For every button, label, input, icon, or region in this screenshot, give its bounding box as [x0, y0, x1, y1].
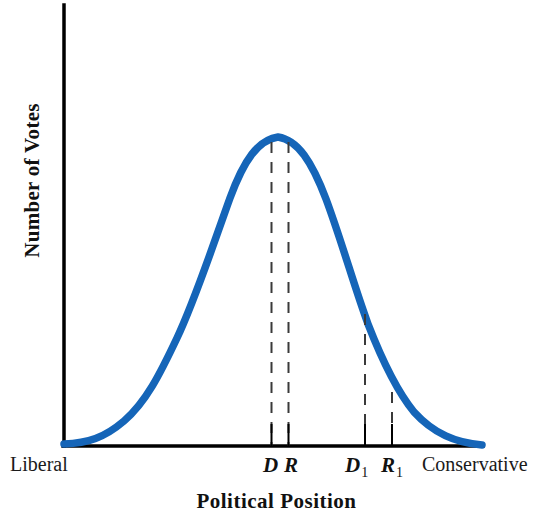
x-axis-left-endpoint-label: Liberal: [10, 454, 68, 474]
tick-label-R: R: [284, 455, 298, 476]
voter-distribution-curve: [64, 137, 482, 445]
tick-label-R1: R1: [381, 455, 403, 480]
political-position-chart: Liberal Conservative D R D1 R1 Political…: [0, 0, 553, 520]
tick-label-D-text: D: [263, 453, 278, 477]
tick-label-R1-subscript: 1: [395, 465, 403, 480]
x-axis-right-endpoint-label: Conservative: [422, 454, 528, 474]
tick-label-D: D: [263, 455, 278, 476]
chart-plot-area: [0, 0, 553, 520]
tick-label-R-text: R: [284, 453, 298, 477]
tick-label-D1: D1: [345, 455, 368, 480]
tick-label-D1-base: D: [345, 453, 360, 477]
y-axis-title: Number of Votes: [20, 81, 45, 281]
tick-label-D1-subscript: 1: [360, 465, 368, 480]
tick-label-R1-base: R: [381, 453, 395, 477]
x-axis-title: Political Position: [0, 489, 553, 514]
